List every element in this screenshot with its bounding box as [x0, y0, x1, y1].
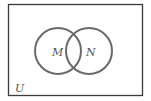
set-n-label: N: [85, 46, 96, 59]
universe-label: U: [15, 82, 25, 95]
venn-diagram: M N U: [0, 0, 151, 101]
universe-rectangle: [9, 5, 143, 96]
set-m-label: M: [51, 46, 64, 59]
